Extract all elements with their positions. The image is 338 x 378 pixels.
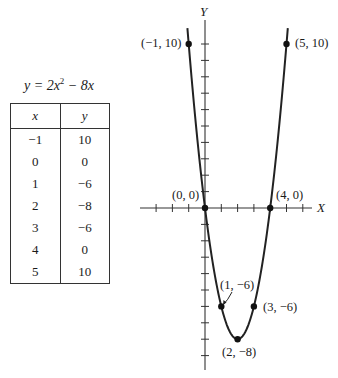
data-point <box>267 205 273 211</box>
data-point <box>283 41 289 47</box>
point-label-5-10: (5, 10) <box>295 36 328 50</box>
arrowhead-icon <box>223 300 227 305</box>
parabola-curve <box>187 28 287 339</box>
data-point <box>234 336 240 342</box>
data-point <box>186 41 192 47</box>
point-label-0-0: (0, 0) <box>172 188 199 202</box>
point-label-3-m6: (3, −6) <box>263 300 297 314</box>
point-label-2-m8: (2, −8) <box>222 345 256 359</box>
point-label-4-0: (4, 0) <box>276 188 303 202</box>
point-label-m1-10: (−1, 10) <box>141 36 181 50</box>
parabola-graph: X Y (−1, 10) (5, 10) (0, 0) (4, 0) (1, −… <box>0 0 338 378</box>
data-point <box>202 205 208 211</box>
x-axis-label: X <box>316 200 326 215</box>
y-axis-label: Y <box>200 4 209 19</box>
data-point <box>251 303 257 309</box>
point-label-1-m6: (1, −6) <box>220 278 254 292</box>
